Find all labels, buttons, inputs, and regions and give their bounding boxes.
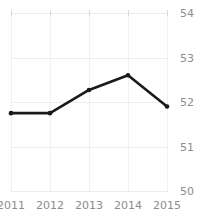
line-series-freedom-trend — [11, 13, 168, 191]
data-point-marker — [48, 111, 53, 116]
x-axis-tick-label: 2011 — [0, 200, 25, 211]
x-axis-tick-label: 2013 — [75, 200, 103, 211]
y-axis-tick-label: 51 — [180, 141, 194, 152]
x-axis-tick-label: 2012 — [36, 200, 64, 211]
y-axis-tick-label: 53 — [180, 52, 194, 63]
chart-title: Freedom Trend — [0, 0, 178, 1]
y-axis-tick-label: 54 — [180, 8, 194, 19]
series-polyline — [11, 75, 167, 113]
gridline-horizontal — [11, 191, 168, 192]
data-point-marker — [165, 104, 170, 109]
chart-container: Freedom Trend 5453525150 201120122013201… — [0, 0, 200, 222]
y-axis-tick-label: 50 — [180, 186, 194, 197]
series-markers — [9, 73, 170, 115]
x-axis-tick-label: 2015 — [153, 200, 181, 211]
plot-area — [11, 13, 168, 191]
data-point-marker — [126, 73, 131, 78]
y-axis-tick-label: 52 — [180, 97, 194, 108]
data-point-marker — [87, 88, 92, 93]
data-point-marker — [9, 111, 14, 116]
x-axis-tick-label: 2014 — [114, 200, 142, 211]
